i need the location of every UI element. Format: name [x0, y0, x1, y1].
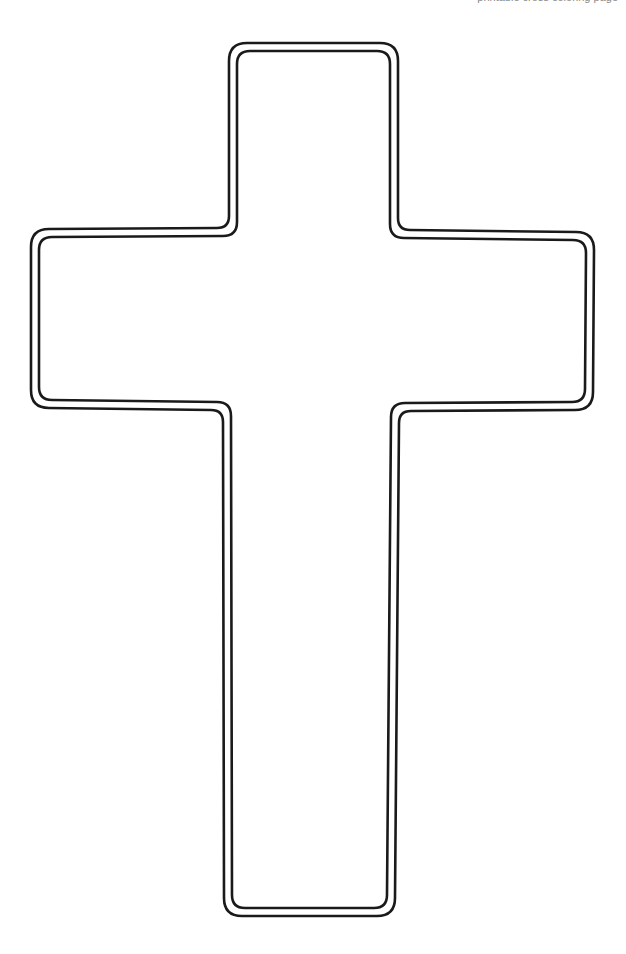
cross-outline-figure [0, 0, 626, 954]
cross-outer-outline [31, 43, 594, 916]
